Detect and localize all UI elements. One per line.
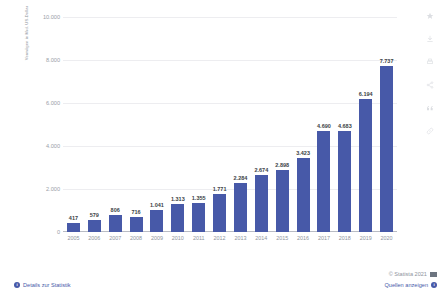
bar-rect[interactable]: [88, 220, 101, 232]
x-axis-tick-label: 2005: [63, 235, 84, 242]
bar-item[interactable]: 4.690: [314, 17, 335, 232]
bar-item[interactable]: 1.041: [147, 17, 168, 232]
bar-value-label: 7.737: [380, 58, 394, 65]
x-axis-tick-label: 2020: [376, 235, 397, 242]
bar-rect[interactable]: [380, 66, 393, 232]
print-icon[interactable]: [422, 54, 438, 70]
chart-grid-area: 4175798067161.0411.3131.3551.7712.2842.6…: [63, 17, 397, 232]
x-axis-tick-label: 2009: [147, 235, 168, 242]
x-axis-tick-label: 2007: [105, 235, 126, 242]
x-axis-tick-label: 2008: [126, 235, 147, 242]
bar-rect[interactable]: [234, 183, 247, 232]
bar-rect[interactable]: [276, 170, 289, 232]
x-axis-tick-label: 2015: [272, 235, 293, 242]
bar-value-label: 1.313: [171, 196, 185, 203]
bar-item[interactable]: 7.737: [376, 17, 397, 232]
x-axis-tick-label: 2018: [334, 235, 355, 242]
x-axis-tick-label: 2012: [209, 235, 230, 242]
bar-value-label: 1.355: [192, 195, 206, 202]
bar-value-label: 417: [69, 215, 78, 222]
x-axis-tick-label: 2006: [84, 235, 105, 242]
info-icon: i: [14, 282, 20, 288]
bar-value-label: 716: [131, 209, 140, 216]
details-link-label: Details zur Statistik: [23, 281, 71, 289]
bar-rect[interactable]: [171, 204, 184, 232]
bar-item[interactable]: 2.674: [251, 17, 272, 232]
y-axis-tick-label: 6.000: [30, 100, 60, 106]
statista-chart-card: Vermögen in Mrd. US-Dollar 02.0004.0006.…: [0, 0, 447, 298]
sources-link[interactable]: Quellen anzeigen i: [384, 281, 437, 289]
bar-rect[interactable]: [192, 203, 205, 232]
link-icon[interactable]: [422, 123, 438, 139]
bar-item[interactable]: 2.284: [230, 17, 251, 232]
quote-icon[interactable]: [422, 100, 438, 116]
bar-value-label: 806: [111, 207, 120, 214]
x-axis-tick-label: 2010: [167, 235, 188, 242]
bar-value-label: 2.898: [275, 162, 289, 169]
details-link[interactable]: i Details zur Statistik: [14, 281, 71, 289]
bar-rect[interactable]: [130, 217, 143, 232]
info-icon: i: [431, 282, 437, 288]
bar-rect[interactable]: [297, 158, 310, 232]
bar-series: 4175798067161.0411.3131.3551.7712.2842.6…: [63, 17, 397, 232]
bar-rect[interactable]: [109, 215, 122, 232]
y-axis-tick-label: 0: [30, 229, 60, 235]
bar-item[interactable]: 6.194: [355, 17, 376, 232]
favorite-star-icon[interactable]: [422, 8, 438, 24]
bar-value-label: 4.690: [317, 123, 331, 130]
x-axis-tick-label: 2017: [314, 235, 335, 242]
y-axis-tick-label: 8.000: [30, 57, 60, 63]
flag-icon: [430, 272, 437, 277]
bar-item[interactable]: 1.355: [188, 17, 209, 232]
action-icon-rail[interactable]: [417, 8, 443, 146]
bar-rect[interactable]: [338, 131, 351, 232]
bar-item[interactable]: 1.313: [167, 17, 188, 232]
x-axis-tick-label: 2016: [293, 235, 314, 242]
sources-link-label: Quellen anzeigen: [384, 281, 428, 289]
download-icon[interactable]: [422, 31, 438, 47]
bar-item[interactable]: 3.423: [293, 17, 314, 232]
footer-right-group: © Statista 2021 Quellen anzeigen i: [384, 270, 437, 289]
bar-rect[interactable]: [213, 194, 226, 232]
y-axis-tick-label: 10.000: [30, 14, 60, 20]
bar-item[interactable]: 2.898: [272, 17, 293, 232]
bar-rect[interactable]: [67, 223, 80, 232]
bar-value-label: 4.683: [338, 123, 352, 130]
bar-item[interactable]: 4.683: [334, 17, 355, 232]
x-axis-tick-label: 2019: [355, 235, 376, 242]
bar-rect[interactable]: [255, 175, 268, 232]
copyright-row: © Statista 2021: [384, 270, 437, 279]
y-axis-tick-label: 2.000: [30, 186, 60, 192]
bar-value-label: 6.194: [359, 91, 373, 98]
bar-rect[interactable]: [150, 210, 163, 232]
chart-footer: i Details zur Statistik © Statista 2021 …: [0, 258, 447, 298]
bar-item[interactable]: 1.771: [209, 17, 230, 232]
x-axis-tick-labels: 2005200620072008200920102011201220132014…: [63, 235, 397, 242]
bar-item[interactable]: 716: [126, 17, 147, 232]
x-axis-tick-label: 2011: [188, 235, 209, 242]
chart-plot-region: Vermögen in Mrd. US-Dollar 02.0004.0006.…: [0, 0, 404, 258]
bar-value-label: 3.423: [296, 150, 310, 157]
bar-item[interactable]: 417: [63, 17, 84, 232]
bar-value-label: 1.771: [213, 186, 227, 193]
copyright-label: © Statista 2021: [389, 270, 427, 279]
y-axis-tick-labels: 02.0004.0006.0008.00010.000: [30, 17, 60, 232]
share-icon[interactable]: [422, 77, 438, 93]
bar-value-label: 2.674: [254, 167, 268, 174]
bar-rect[interactable]: [359, 99, 372, 232]
x-axis-tick-label: 2014: [251, 235, 272, 242]
bar-item[interactable]: 806: [105, 17, 126, 232]
bar-value-label: 579: [90, 212, 99, 219]
bar-rect[interactable]: [317, 131, 330, 232]
bar-value-label: 2.284: [234, 175, 248, 182]
bar-item[interactable]: 579: [84, 17, 105, 232]
y-axis-tick-label: 4.000: [30, 143, 60, 149]
bar-value-label: 1.041: [150, 202, 164, 209]
x-axis-tick-label: 2013: [230, 235, 251, 242]
